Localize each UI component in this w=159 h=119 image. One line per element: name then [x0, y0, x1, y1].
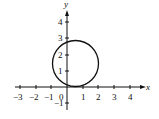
circle-plot: x y −3 −2 −1 0 1 2 3 4 4 3 2 1 −1 — [0, 0, 159, 119]
x-tick-label: 1 — [81, 92, 86, 102]
y-tick-label: 2 — [58, 50, 63, 60]
y-axis-arrow-icon — [65, 10, 69, 16]
x-tick-label: 2 — [96, 92, 101, 102]
y-axis-label: y — [63, 0, 68, 9]
x-tick-label: −3 — [13, 92, 23, 102]
x-tick-label: 4 — [128, 92, 133, 102]
y-tick-label: 3 — [58, 33, 63, 43]
x-axis-label: x — [145, 82, 150, 92]
x-tick-label: −2 — [29, 92, 39, 102]
y-axis — [65, 10, 69, 110]
y-tick-label: 1 — [58, 66, 63, 76]
y-tick-label: −1 — [54, 98, 64, 108]
x-tick-label: −1 — [44, 92, 54, 102]
x-tick-label: 3 — [112, 92, 117, 102]
y-tick-label: 4 — [58, 17, 63, 27]
circle-curve — [53, 41, 99, 87]
